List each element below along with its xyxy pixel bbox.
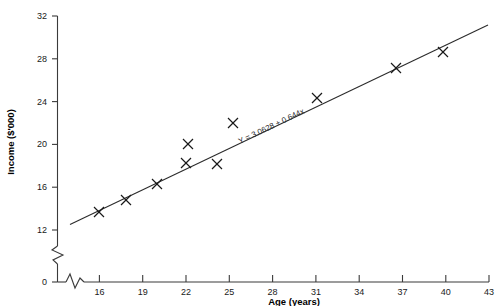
y-axis-title: Income ($'000): [5, 109, 16, 175]
y-tick-label: 28: [37, 54, 47, 64]
data-point-marker: [183, 139, 193, 149]
x-tick-label: 43: [484, 287, 494, 297]
data-point-marker: [152, 179, 162, 189]
x-axis-break-icon: [66, 274, 84, 288]
data-points: [94, 47, 448, 217]
x-tick-label: 40: [441, 287, 451, 297]
regression-equation-label: Y = 3.0628 + 0.644x: [237, 107, 306, 146]
data-point-marker: [438, 47, 448, 57]
y-axis-break-icon: [52, 246, 63, 264]
scatter-plot-svg: 0 12 16 20 24 28 32 16 19 22 25 28: [0, 0, 503, 306]
x-axis-title: Age (years): [268, 296, 320, 306]
x-tick-label: 19: [138, 287, 148, 297]
y-tick-label: 32: [37, 11, 47, 21]
chart-container: 0 12 16 20 24 28 32 16 19 22 25 28: [0, 0, 503, 306]
data-point-marker: [391, 63, 401, 73]
y-tick-label: 0: [42, 277, 47, 287]
data-point-marker: [212, 159, 222, 169]
data-point-marker: [181, 158, 191, 168]
y-axis-ticks: [52, 16, 58, 282]
y-tick-label: 24: [37, 97, 47, 107]
data-point-marker: [228, 118, 238, 128]
x-tick-label: 25: [224, 287, 234, 297]
data-point-marker: [312, 93, 322, 103]
y-tick-label: 16: [37, 182, 47, 192]
x-tick-label: 22: [181, 287, 191, 297]
x-axis-ticks: [99, 275, 489, 282]
y-axis-tick-labels: 0 12 16 20 24 28 32: [37, 11, 47, 287]
x-tick-label: 34: [354, 287, 364, 297]
y-tick-label: 20: [37, 139, 47, 149]
x-tick-label: 37: [397, 287, 407, 297]
x-tick-label: 16: [94, 287, 104, 297]
y-tick-label: 12: [37, 225, 47, 235]
